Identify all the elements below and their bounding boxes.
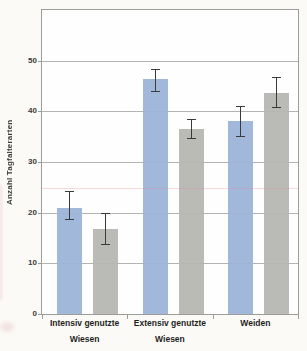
y-axis-tick-label-20: 20 <box>18 208 37 218</box>
error-bar-blue-group3 <box>240 106 241 135</box>
error-bar-cap-top-blue-group1 <box>65 191 74 192</box>
y-axis-tick-label-40: 40 <box>18 106 37 116</box>
category-label-1: Intensiv genutzteWiesen <box>42 319 127 344</box>
bar-blue-group3 <box>228 121 253 314</box>
scan-artifact-line <box>42 188 298 189</box>
scan-artifact-edge <box>0 185 2 300</box>
y-axis-tick-label-30: 30 <box>18 157 37 167</box>
error-bar-cap-bottom-gray-group2 <box>187 138 196 139</box>
error-bar-cap-top-blue-group2 <box>151 69 160 70</box>
gridline-30 <box>42 162 298 163</box>
bar-blue-group1 <box>57 208 82 314</box>
error-bar-gray-group2 <box>191 119 192 138</box>
error-bar-cap-top-gray-group3 <box>272 77 281 78</box>
y-axis-title: Anzahl Tagfalterarten <box>3 9 15 315</box>
category-label-line: Wiesen <box>127 335 212 344</box>
error-bar-blue-group1 <box>69 191 70 219</box>
error-bar-cap-top-gray-group1 <box>101 213 110 214</box>
error-bar-cap-top-gray-group2 <box>187 119 196 120</box>
scan-artifact-smudge <box>0 322 14 332</box>
error-bar-cap-bottom-gray-group3 <box>272 107 281 108</box>
gridline-50 <box>42 61 298 62</box>
error-bar-cap-top-blue-group3 <box>236 106 245 107</box>
category-label-line: Extensiv genutzte <box>127 319 212 328</box>
y-axis-tick-label-0: 0 <box>18 309 37 319</box>
figure: Anzahl Tagfalterarten 01020304050Intensi… <box>0 0 307 351</box>
error-bar-cap-bottom-blue-group1 <box>65 219 74 220</box>
category-label-line: Intensiv genutzte <box>42 319 127 328</box>
plot-area <box>41 9 299 315</box>
x-axis-tick-3 <box>298 315 299 319</box>
category-label-line: Wiesen <box>42 335 127 344</box>
error-bar-cap-bottom-gray-group1 <box>101 244 110 245</box>
category-label-3: Weiden <box>213 319 298 328</box>
bar-blue-group2 <box>143 79 168 314</box>
error-bar-gray-group1 <box>105 213 106 243</box>
error-bar-blue-group2 <box>155 69 156 91</box>
bar-gray-group2 <box>179 129 204 314</box>
gridline-40 <box>42 111 298 112</box>
error-bar-cap-bottom-blue-group2 <box>151 91 160 92</box>
error-bar-gray-group3 <box>276 77 277 107</box>
category-label-2: Extensiv genutzteWiesen <box>127 319 212 344</box>
y-axis-tick-label-50: 50 <box>18 56 37 66</box>
category-label-line: Weiden <box>213 319 298 328</box>
error-bar-cap-bottom-blue-group3 <box>236 136 245 137</box>
bar-gray-group3 <box>264 93 289 314</box>
y-axis-tick-label-10: 10 <box>18 258 37 268</box>
